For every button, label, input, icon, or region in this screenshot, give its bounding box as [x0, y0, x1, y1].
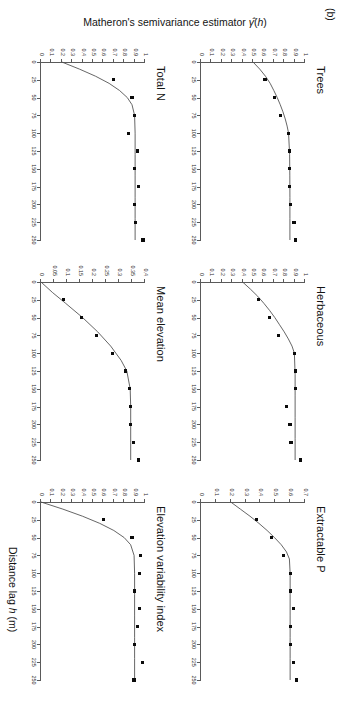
data-point [102, 518, 105, 521]
data-point [139, 554, 142, 557]
y-axis-title: Matheron's semivariance estimator γ̂(h) [75, 16, 275, 28]
data-point [133, 643, 136, 646]
data-point [133, 589, 136, 592]
semivariogram-figure: (b) Trees025507510012515017520022525000.… [0, 0, 341, 702]
figure-frame: (b) Trees025507510012515017520022525000.… [0, 0, 341, 702]
model-curve [0, 0, 341, 702]
data-point [136, 625, 139, 628]
data-point [133, 678, 136, 681]
panel-elevation-variability-index: Elevation variability index0255075100125… [0, 0, 341, 702]
data-point [130, 536, 133, 539]
data-point [138, 607, 141, 610]
x-axis-title: Distance lag h (m) [7, 547, 19, 632]
x-axis-title-text: Distance lag h (m) [7, 547, 19, 632]
data-point [138, 572, 141, 575]
y-axis-title-text: Matheron's semivariance estimator γ̂(h) [83, 16, 267, 28]
data-point [141, 661, 144, 664]
